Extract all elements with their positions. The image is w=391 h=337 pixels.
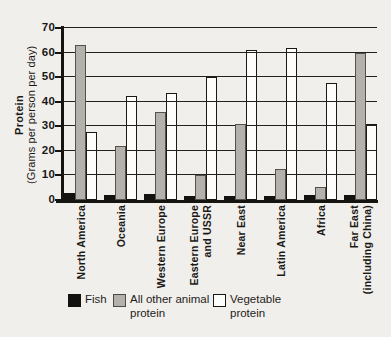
gridline-40 (63, 101, 377, 102)
y-tick-label-70: 70 (28, 21, 55, 33)
gridline-30 (63, 125, 377, 126)
bar-animal-near-east (235, 124, 246, 200)
x-axis-line (56, 200, 378, 203)
legend-swatch-fish (68, 294, 81, 307)
y-tick-label-10: 10 (28, 168, 55, 180)
x-label-north-america: North America (74, 205, 87, 280)
x-label-eastern-europe-and-ussr: Eastern Europe and USSR (188, 205, 214, 285)
bar-veg-eastern-europe-and-ussr (206, 77, 217, 200)
legend-label-veg: Vegetable protein (230, 293, 281, 320)
bar-veg-latin-america (286, 48, 297, 200)
legend-item-fish: Fish (68, 293, 107, 307)
gridline-10 (63, 174, 377, 175)
bar-fish-africa (304, 195, 315, 200)
x-label-near-east: Near East (234, 205, 247, 255)
x-label-africa: Africa (314, 205, 327, 236)
legend-swatch-animal (113, 294, 126, 307)
legend-item-animal: All other animal protein (113, 293, 209, 320)
y-tick-label-40: 40 (28, 95, 55, 107)
bar-fish-eastern-europe-and-ussr (184, 196, 195, 200)
x-label-oceania: Oceania (114, 205, 127, 247)
x-label-far-east-including-china: Far East (including China) (348, 205, 374, 294)
y-tick-label-50: 50 (28, 70, 55, 82)
bar-fish-far-east-including-china (344, 195, 355, 200)
legend-label-fish: Fish (85, 293, 107, 307)
legend-swatch-veg (213, 294, 226, 307)
bar-veg-oceania (126, 96, 137, 200)
protein-bar-chart-figure: Protein (Grams per person per day) 01020… (0, 0, 391, 337)
gridline-20 (63, 150, 377, 151)
bar-veg-western-europe (166, 93, 177, 200)
bar-animal-far-east-including-china (355, 53, 366, 200)
bar-animal-western-europe (155, 112, 166, 200)
bar-veg-north-america (86, 132, 97, 200)
y-axis-title-main: Protein (13, 28, 25, 202)
bar-animal-north-america (75, 45, 86, 200)
bar-veg-far-east-including-china (366, 124, 377, 200)
legend-item-veg: Vegetable protein (213, 293, 281, 320)
bar-animal-africa (315, 187, 326, 201)
bar-fish-oceania (104, 195, 115, 200)
y-tick-label-30: 30 (28, 119, 55, 131)
y-tick-label-20: 20 (28, 144, 55, 156)
x-label-western-europe: Western Europe (154, 205, 167, 288)
bar-animal-eastern-europe-and-ussr (195, 175, 206, 200)
bar-animal-oceania (115, 146, 126, 200)
plot-area (63, 28, 377, 200)
gridline-60 (63, 52, 377, 53)
bar-fish-near-east (224, 196, 235, 200)
y-tick-label-60: 60 (28, 46, 55, 58)
x-label-latin-america: Latin America (274, 205, 287, 277)
gridline-70 (63, 27, 377, 28)
gridline-50 (63, 76, 377, 77)
bar-fish-north-america (64, 193, 75, 200)
y-tick-label-0: 0 (28, 193, 55, 205)
bar-fish-western-europe (144, 194, 155, 200)
bar-fish-latin-america (264, 196, 275, 200)
bar-animal-latin-america (275, 169, 286, 200)
legend-label-animal: All other animal protein (130, 293, 209, 320)
